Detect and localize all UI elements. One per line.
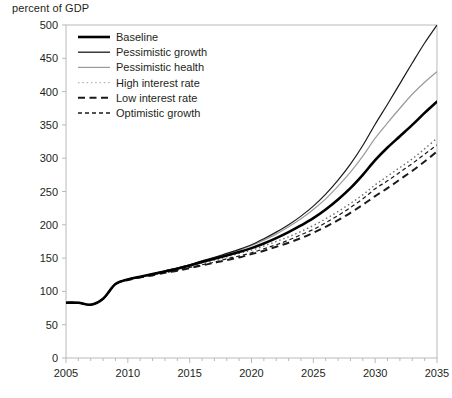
legend-label: Low interest rate bbox=[116, 92, 197, 104]
legend-label: High interest rate bbox=[116, 77, 200, 89]
legend-label: Baseline bbox=[116, 31, 158, 43]
y-axis-tick-label: 100 bbox=[40, 285, 58, 297]
x-axis-tick-label: 2015 bbox=[177, 367, 201, 379]
y-axis-tick-label: 350 bbox=[40, 119, 58, 131]
y-axis-tick-label: 500 bbox=[40, 19, 58, 31]
y-axis-tick-label: 250 bbox=[40, 186, 58, 198]
x-axis-tick-label: 2005 bbox=[54, 367, 78, 379]
legend-label: Optimistic growth bbox=[116, 107, 200, 119]
series-line-baseline bbox=[66, 102, 437, 305]
legend-label: Pessimistic health bbox=[116, 61, 204, 73]
line-chart-plot: 0501001502002503003504004505002005201020… bbox=[0, 0, 452, 398]
y-axis-tick-label: 150 bbox=[40, 252, 58, 264]
y-axis-tick-label: 300 bbox=[40, 152, 58, 164]
plot-frame bbox=[66, 25, 437, 358]
chart-container: percent of GDP 0501001502002503003504004… bbox=[0, 0, 452, 398]
chart-legend: BaselinePessimistic growthPessimistic he… bbox=[78, 31, 207, 119]
y-axis-tick-label: 0 bbox=[52, 352, 58, 364]
legend-label: Pessimistic growth bbox=[116, 46, 207, 58]
y-axis-tick-label: 450 bbox=[40, 52, 58, 64]
x-axis-tick-label: 2030 bbox=[363, 367, 387, 379]
x-axis-tick-label: 2020 bbox=[239, 367, 263, 379]
y-axis-tick-label: 400 bbox=[40, 86, 58, 98]
y-axis-tick-label: 200 bbox=[40, 219, 58, 231]
x-axis-tick-label: 2035 bbox=[425, 367, 449, 379]
x-axis-tick-label: 2025 bbox=[301, 367, 325, 379]
y-axis-tick-label: 50 bbox=[46, 319, 58, 331]
x-axis-tick-label: 2010 bbox=[116, 367, 140, 379]
